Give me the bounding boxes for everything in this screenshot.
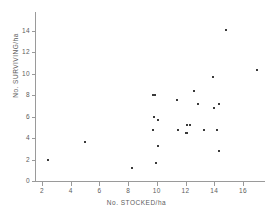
scatter-plot-figure: 02468101214246810121416 No. STOCKED/ha N… <box>0 0 273 217</box>
data-point <box>212 76 214 78</box>
x-axis-tick <box>214 182 215 186</box>
x-axis-tick-label: 16 <box>235 187 251 194</box>
data-point <box>225 29 227 31</box>
x-axis-tick-label: 12 <box>178 187 194 194</box>
y-axis-tick-label: 0 <box>10 177 30 185</box>
x-axis-tick <box>42 182 43 186</box>
y-axis-title: No. SURVIVING/ha <box>12 11 19 121</box>
x-axis-tick <box>128 182 129 186</box>
data-point <box>186 124 188 126</box>
x-axis-tick-label: 8 <box>120 187 136 194</box>
data-point <box>213 107 215 109</box>
data-point <box>152 94 154 96</box>
data-point <box>157 145 159 147</box>
x-axis-tick <box>71 182 72 186</box>
data-point <box>218 150 220 152</box>
data-point <box>176 99 178 101</box>
data-point <box>153 116 155 118</box>
y-axis-tick <box>32 52 36 53</box>
y-axis-tick <box>32 181 36 182</box>
data-point <box>84 141 86 143</box>
x-axis-tick-label: 6 <box>91 187 107 194</box>
data-point <box>157 119 159 121</box>
data-point <box>131 167 133 169</box>
y-axis-tick-label: 4 <box>10 134 30 142</box>
x-axis-tick <box>157 182 158 186</box>
x-axis-tick <box>243 182 244 186</box>
data-point <box>177 129 179 131</box>
data-point <box>216 129 218 131</box>
data-point <box>197 103 199 105</box>
data-point <box>256 69 258 71</box>
x-axis-tick-label: 4 <box>63 187 79 194</box>
y-axis-tick <box>32 117 36 118</box>
y-axis-tick-label: 2 <box>10 156 30 164</box>
data-point <box>154 94 156 96</box>
y-axis-tick <box>32 95 36 96</box>
data-point <box>193 90 195 92</box>
y-axis-tick <box>32 138 36 139</box>
y-axis-tick-label-text: 0 <box>14 177 30 184</box>
data-point <box>155 162 157 164</box>
x-axis-tick-label: 2 <box>34 187 50 194</box>
plot-area: 02468101214246810121416 <box>0 0 273 217</box>
y-axis-tick <box>32 74 36 75</box>
y-axis-tick-label-text: 4 <box>14 134 30 141</box>
x-axis-tick-label: 10 <box>149 187 165 194</box>
y-axis-tick-label-text: 2 <box>14 156 30 163</box>
x-axis-title: No. STOCKED/ha <box>0 199 273 206</box>
y-axis-tick <box>32 160 36 161</box>
data-point <box>189 124 191 126</box>
x-axis-tick-label: 14 <box>206 187 222 194</box>
x-axis-tick <box>99 182 100 186</box>
y-axis-tick <box>32 31 36 32</box>
data-point <box>218 103 220 105</box>
data-point <box>203 129 205 131</box>
x-axis-tick <box>186 182 187 186</box>
data-point <box>47 159 49 161</box>
data-point <box>152 129 154 131</box>
data-point <box>186 132 188 134</box>
